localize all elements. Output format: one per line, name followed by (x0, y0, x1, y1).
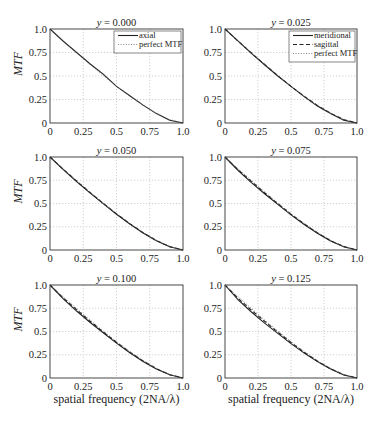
subplot-1: 00.250.50.751.000.250.50.751.0y = 0.025m… (204, 17, 364, 137)
y-tick-label: 0.25 (204, 94, 222, 105)
y-tick-label: 0.75 (204, 47, 222, 58)
x-tick-label: 0.5 (284, 381, 297, 392)
x-tick-label: 0.75 (141, 381, 159, 392)
y-tick-label: 0 (217, 245, 222, 256)
subplot-2: 00.250.50.751.000.250.50.751.0y = 0.050M… (11, 145, 190, 264)
y-axis-label: MTF (11, 307, 25, 333)
y-tick-label: 0.5 (34, 198, 47, 209)
subplot-title: y = 0.050 (96, 145, 136, 156)
legend-entry: perfect MTF (139, 39, 182, 49)
y-tick-label: 0.75 (204, 175, 222, 186)
legend-entry: perfect MTF (314, 48, 357, 58)
y-tick-label: 0.25 (29, 221, 47, 232)
x-tick-label: 0 (222, 253, 227, 264)
subplot-3: 00.250.50.751.000.250.50.751.0y = 0.075 (204, 145, 364, 264)
x-axis-label: spatial frequency (2NA/λ) (54, 392, 180, 406)
y-tick-label: 1.0 (34, 24, 47, 35)
y-tick-label: 0.25 (204, 221, 222, 232)
subplot-0: 00.250.50.751.000.250.50.751.0y = 0.000M… (11, 17, 190, 137)
y-tick-label: 0.25 (204, 349, 222, 360)
x-axis-label: spatial frequency (2NA/λ) (228, 392, 354, 406)
y-tick-label: 0.5 (34, 71, 47, 82)
y-tick-label: 0.75 (204, 303, 222, 314)
x-tick-label: 1.0 (176, 381, 189, 392)
y-tick-label: 0.75 (29, 303, 47, 314)
x-tick-label: 0.25 (74, 126, 92, 137)
subplot-title: y = 0.100 (96, 273, 136, 284)
y-tick-label: 0.25 (29, 349, 47, 360)
subplot-4: 00.250.50.751.000.250.50.751.0y = 0.100M… (11, 273, 190, 406)
x-tick-label: 0.75 (315, 381, 333, 392)
subplot-title: y = 0.000 (96, 17, 136, 28)
y-tick-label: 0 (42, 118, 47, 129)
x-tick-label: 0 (47, 126, 52, 137)
y-axis-label: MTF (11, 179, 25, 205)
x-tick-label: 0.75 (141, 126, 159, 137)
x-tick-label: 0 (222, 126, 227, 137)
y-tick-label: 1.0 (34, 280, 47, 291)
x-tick-label: 0.25 (249, 126, 267, 137)
y-tick-label: 1.0 (209, 152, 222, 163)
y-tick-label: 0.75 (29, 47, 47, 58)
y-tick-label: 0 (217, 118, 222, 129)
x-tick-label: 1.0 (350, 253, 363, 264)
x-tick-label: 0 (47, 253, 52, 264)
x-tick-label: 0.75 (315, 126, 333, 137)
y-tick-label: 0.5 (209, 198, 222, 209)
x-tick-label: 0 (47, 381, 52, 392)
x-tick-label: 1.0 (176, 126, 189, 137)
x-tick-label: 0.5 (110, 381, 123, 392)
y-tick-label: 0 (42, 245, 47, 256)
y-tick-label: 0.5 (209, 326, 222, 337)
x-tick-label: 0.5 (110, 253, 123, 264)
y-tick-label: 0.25 (29, 94, 47, 105)
y-tick-label: 0 (42, 373, 47, 384)
mtf-figure: 00.250.50.751.000.250.50.751.0y = 0.000M… (0, 0, 382, 424)
x-tick-label: 0.5 (284, 126, 297, 137)
x-tick-label: 1.0 (350, 126, 363, 137)
y-tick-label: 1.0 (34, 152, 47, 163)
x-tick-label: 0.5 (284, 253, 297, 264)
x-tick-label: 0.5 (110, 126, 123, 137)
x-tick-label: 0.25 (74, 253, 92, 264)
subplot-title: y = 0.075 (270, 145, 310, 156)
x-tick-label: 0.75 (315, 253, 333, 264)
y-tick-label: 1.0 (209, 280, 222, 291)
x-tick-label: 0.25 (249, 253, 267, 264)
x-tick-label: 0 (222, 381, 227, 392)
y-tick-label: 0.5 (34, 326, 47, 337)
y-tick-label: 1.0 (209, 24, 222, 35)
legend: meridionalsagittalperfect MTF (289, 30, 357, 62)
y-tick-label: 0.5 (209, 71, 222, 82)
x-tick-label: 0.25 (74, 381, 92, 392)
subplot-5: 00.250.50.751.000.250.50.751.0y = 0.125s… (204, 273, 364, 406)
x-tick-label: 0.25 (249, 381, 267, 392)
y-tick-label: 0 (217, 373, 222, 384)
x-tick-label: 0.75 (141, 253, 159, 264)
subplot-title: y = 0.025 (270, 17, 310, 28)
y-axis-label: MTF (11, 51, 25, 77)
legend: axialperfect MTF (114, 30, 182, 53)
x-tick-label: 1.0 (350, 381, 363, 392)
y-tick-label: 0.75 (29, 175, 47, 186)
x-tick-label: 1.0 (176, 253, 189, 264)
subplot-title: y = 0.125 (270, 273, 310, 284)
